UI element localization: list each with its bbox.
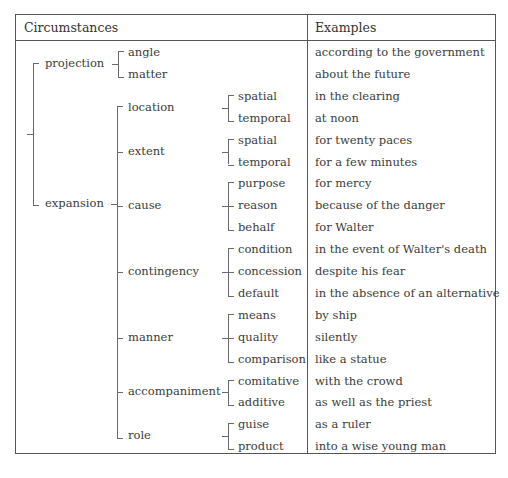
bracket-tick [228,230,234,231]
bracket-stem [222,272,228,273]
bracket-stem [222,152,228,153]
header-circumstances: Circumstances [24,20,118,35]
bracket-stem [222,436,228,437]
header-divider [16,40,495,41]
bracket-tick [228,362,234,363]
example-text: in the event of Walter's death [315,242,487,256]
bracket-vertical [228,423,229,449]
bracket-stem [222,392,228,393]
node-accompaniment: accompaniment [128,384,221,398]
leaf-label: spatial [238,133,277,147]
bracket-stem [222,206,228,207]
bracket-stem [27,134,33,135]
bracket-tick [33,63,39,64]
example-text: at noon [315,111,359,125]
leaf-label: condition [238,242,292,256]
bracket-tick [118,51,124,52]
leaf-label: means [238,308,276,322]
bracket-vertical [228,380,229,406]
node-expansion: expansion [45,196,104,210]
example-text: silently [315,330,357,344]
bracket-vertical [118,51,119,77]
bracket-tick [117,152,123,153]
bracket-tick [228,449,234,450]
leaf-label: matter [128,67,167,81]
example-text: because of the danger [315,198,445,212]
bracket-vertical [228,139,229,165]
node-manner: manner [128,330,173,344]
leaf-label: guise [238,417,269,431]
bracket-tick [118,77,124,78]
example-text: despite his fear [315,264,405,278]
bracket-tick [228,423,234,424]
example-text: about the future [315,67,410,81]
bracket-tick [117,206,123,207]
bracket-tick [117,392,123,393]
example-text: with the crowd [315,374,403,388]
example-text: by ship [315,308,357,322]
bracket-tick [228,248,234,249]
example-text: according to the government [315,45,485,59]
node-location: location [128,100,175,114]
header-examples: Examples [315,20,376,35]
bracket-tick [228,165,234,166]
bracket-tick [117,438,123,439]
bracket-tick [117,272,123,273]
column-divider [307,15,308,453]
leaf-label: temporal [238,111,291,125]
bracket-tick [117,106,123,107]
example-text: in the clearing [315,89,400,103]
node-projection: projection [45,56,104,70]
example-text: for a few minutes [315,155,417,169]
bracket-stem [222,338,228,339]
bracket-tick [228,121,234,122]
example-text: for twenty paces [315,133,412,147]
circumstances-table: Circumstances Examples angleaccording to… [15,14,496,454]
leaf-label: additive [238,395,285,409]
bracket-tick [228,314,234,315]
node-extent: extent [128,144,165,158]
bracket-tick [228,338,234,339]
bracket-tick [228,206,234,207]
leaf-label: quality [238,330,278,344]
leaf-label: behalf [238,220,274,234]
example-text: as a ruler [315,417,371,431]
bracket-tick [33,205,39,206]
node-cause: cause [128,198,161,212]
bracket-tick [228,296,234,297]
bracket-tick [228,405,234,406]
example-text: in the absence of an alternative [315,286,500,300]
leaf-label: reason [238,198,277,212]
bracket-vertical [33,63,34,205]
example-text: into a wise young man [315,439,446,453]
example-text: for Walter [315,220,374,234]
bracket-stem [222,108,228,109]
leaf-label: product [238,439,284,453]
bracket-stem [111,204,117,205]
node-role: role [128,428,151,442]
leaf-label: comitative [238,374,299,388]
bracket-tick [228,95,234,96]
example-text: as well as the priest [315,395,432,409]
leaf-label: angle [128,45,160,59]
node-contingency: contingency [128,264,199,278]
bracket-tick [228,380,234,381]
leaf-label: default [238,286,279,300]
bracket-vertical [228,95,229,121]
leaf-label: concession [238,264,302,278]
leaf-label: purpose [238,176,285,190]
example-text: like a statue [315,352,387,366]
leaf-label: temporal [238,155,291,169]
bracket-tick [228,139,234,140]
leaf-label: comparison [238,352,306,366]
bracket-tick [228,182,234,183]
leaf-label: spatial [238,89,277,103]
example-text: for mercy [315,176,371,190]
bracket-tick [117,338,123,339]
bracket-tick [228,272,234,273]
bracket-stem [112,64,118,65]
